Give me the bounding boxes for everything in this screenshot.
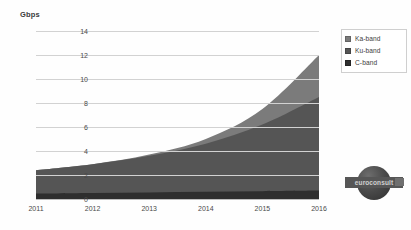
legend-label: Ku-band	[355, 47, 381, 54]
y-axis-tick-label: 8	[64, 100, 88, 107]
legend-swatch-icon	[345, 48, 351, 54]
x-axis-tick-label: 2015	[242, 205, 282, 212]
y-axis-tick-label: 2	[64, 172, 88, 179]
legend-swatch-icon	[345, 36, 351, 42]
watermark-text: euroconsult	[355, 179, 393, 186]
x-axis-tick-label: 2012	[73, 205, 113, 212]
legend-item-ka-band[interactable]: Ka-band	[345, 33, 404, 44]
y-axis-tick-label: 12	[64, 52, 88, 59]
legend-swatch-icon	[345, 60, 351, 66]
y-axis-tick-label: 14	[64, 28, 88, 35]
legend-label: Ka-band	[355, 35, 381, 42]
y-axis-tick-label: 6	[64, 124, 88, 131]
legend-label: C-band	[355, 59, 377, 66]
y-axis-tick-label: 0	[64, 196, 88, 203]
y-axis-tick-label: 10	[64, 76, 88, 83]
y-axis-unit-label: Gbps	[20, 10, 40, 19]
chart-legend: Ka-bandKu-bandC-band	[341, 29, 407, 73]
legend-item-c-band[interactable]: C-band	[345, 57, 404, 68]
stacked-area-chart: Gbps 02468101214 20112012201320142015201…	[0, 0, 411, 230]
watermark-mark-icon	[395, 178, 404, 186]
x-axis-tick-label: 2013	[129, 205, 169, 212]
x-axis-tick-label: 2016	[299, 205, 339, 212]
watermark-logo: euroconsult	[345, 165, 405, 203]
y-axis-tick-label: 4	[64, 148, 88, 155]
x-axis-tick-label: 2014	[186, 205, 226, 212]
x-axis-tick-label: 2011	[16, 205, 56, 212]
legend-item-ku-band[interactable]: Ku-band	[345, 45, 404, 56]
